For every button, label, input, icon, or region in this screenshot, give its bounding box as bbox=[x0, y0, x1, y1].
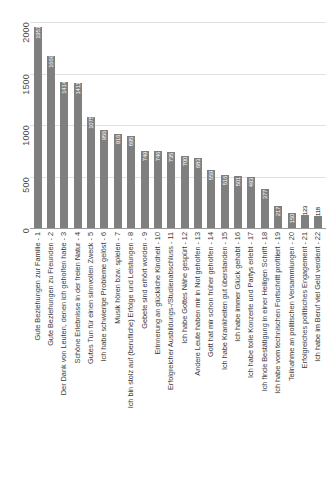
bar-slot: 1411 bbox=[71, 22, 84, 228]
x-axis-label-slot: Musik hören bzw. spielen - 7 bbox=[111, 230, 124, 478]
bar-slot: 217 bbox=[271, 22, 284, 228]
x-axis-tick-label: Gutes Tun für einen sinnvollen Zweck - 5 bbox=[87, 232, 95, 364]
x-axis-label-slot: Gutes Tun für einen sinnvollen Zweck - 5 bbox=[84, 230, 97, 478]
bar-slot: 493 bbox=[245, 22, 258, 228]
bar-value-label: 1411 bbox=[74, 82, 81, 94]
bar: 217 bbox=[274, 206, 282, 228]
bar-slot: 735 bbox=[165, 22, 178, 228]
bar-value-label: 895 bbox=[128, 137, 135, 146]
x-axis-tick-label: Ich habe Krankheiten gut überstanden - 1… bbox=[221, 232, 229, 370]
bar: 377 bbox=[261, 189, 269, 228]
x-axis-label-slot: Der Dank von Leuten, denen ich geholfen … bbox=[58, 230, 71, 478]
x-axis-tick-label: Gute Beziehungen zur Familie - 1 bbox=[34, 232, 42, 341]
bar: 118 bbox=[314, 216, 322, 228]
bar-slot: 956 bbox=[98, 22, 111, 228]
bar: 1669 bbox=[47, 56, 55, 228]
bar-value-label: 956 bbox=[101, 130, 108, 139]
bar-value-label: 746 bbox=[154, 152, 161, 161]
bar-value-label: 123 bbox=[301, 206, 308, 215]
bar: 956 bbox=[100, 130, 108, 228]
bar: 749 bbox=[141, 151, 149, 228]
bar: 123 bbox=[301, 215, 309, 228]
x-axis-label-slot: Ich habe Gottes Nähe gespürt - 12 bbox=[178, 230, 191, 478]
bar-value-label: 749 bbox=[141, 152, 148, 161]
bar-slot: 1669 bbox=[44, 22, 57, 228]
x-axis-label-slot: Erfolgreiches politisches Engagement - 2… bbox=[298, 230, 311, 478]
bar: 683 bbox=[194, 158, 202, 228]
y-axis: 0500100015002000 bbox=[0, 22, 30, 228]
bar-slot: 1414 bbox=[58, 22, 71, 228]
bar-value-label: 1414 bbox=[61, 82, 68, 95]
bar: 916 bbox=[114, 134, 122, 228]
plot-area: 1951166914141411107595691689574974673570… bbox=[30, 22, 326, 228]
x-axis-tick-label: Erfolgreiches politisches Engagement - 2… bbox=[301, 232, 309, 368]
bar-slot: 559 bbox=[205, 22, 218, 228]
bar-value-label: 1951 bbox=[34, 26, 41, 39]
x-axis-label-slot: Ich habe Krankheiten gut überstanden - 1… bbox=[218, 230, 231, 478]
bar-slot: 123 bbox=[298, 22, 311, 228]
x-axis-label-slot: Ich finde Bestätigung in einer Heiligen … bbox=[258, 230, 271, 478]
x-axis-tick-label: Gute Beziehungen zu Freunden - 2 bbox=[47, 232, 55, 346]
bar-series: 1951166914141411107595691689574974673570… bbox=[30, 22, 326, 228]
x-axis-label-slot: Schöne Erlebnisse in der freien Natur - … bbox=[71, 230, 84, 478]
x-axis-label-slot: Ich habe im Beruf viel Geld verdient - 2… bbox=[312, 230, 325, 478]
x-axis-tick-label: Ich habe Gottes Nähe gespürt - 12 bbox=[181, 232, 189, 344]
bar: 1411 bbox=[74, 83, 82, 228]
x-axis-label-slot: Gott hat mir schon früher geholfen - 14 bbox=[205, 230, 218, 478]
x-axis-tick-label: Musik hören bzw. spielen - 7 bbox=[114, 232, 122, 324]
bar: 493 bbox=[247, 177, 255, 228]
x-axis-tick-label: Erinnerung an glückliche Kindheit - 10 bbox=[154, 232, 162, 355]
bar-value-label: 377 bbox=[261, 190, 268, 199]
x-axis-tick-label: Ich habe vom technischen Fortschritt pro… bbox=[274, 232, 282, 394]
bar-value-label: 516 bbox=[221, 176, 228, 185]
x-axis-tick-label: Ich finde Bestätigung in einer Heiligen … bbox=[261, 232, 269, 391]
bar-slot: 1075 bbox=[84, 22, 97, 228]
bar-slot: 916 bbox=[111, 22, 124, 228]
x-axis-tick-label: Ich habe tolle Konzerte und Partys erleb… bbox=[247, 232, 255, 378]
bar-slot: 501 bbox=[231, 22, 244, 228]
x-axis-category-labels: Gute Beziehungen zur Familie - 1Gute Bez… bbox=[30, 230, 326, 478]
x-axis-label-slot: Gute Beziehungen zu Freunden - 2 bbox=[44, 230, 57, 478]
bar-value-label: 1075 bbox=[88, 117, 95, 130]
x-axis-tick-label: Gott hat mir schon früher geholfen - 14 bbox=[207, 232, 215, 357]
bar-value-label: 916 bbox=[114, 134, 121, 143]
x-axis-tick-label: Schöne Erlebnisse in der freien Natur - … bbox=[74, 232, 82, 363]
x-axis-label-slot: Andere Leute haben mir in Not geholfen -… bbox=[191, 230, 204, 478]
bar-slot: 1951 bbox=[31, 22, 44, 228]
x-axis-tick-label: Ich habe im Beruf viel Geld verdient - 2… bbox=[314, 232, 322, 362]
bar-slot: 118 bbox=[312, 22, 325, 228]
x-axis-tick-label: Gebete sind erhört worden - 9 bbox=[141, 232, 149, 329]
bar-value-label: 1669 bbox=[48, 55, 55, 68]
bar: 735 bbox=[167, 152, 175, 228]
bar: 700 bbox=[181, 156, 189, 228]
bar-value-label: 559 bbox=[208, 171, 215, 180]
bar: 895 bbox=[127, 136, 135, 228]
x-axis-tick-label: Ich habe immer Glück gehabt - 16 bbox=[234, 232, 242, 342]
x-axis-label-slot: Ich habe schwierige Probleme gelöst - 6 bbox=[98, 230, 111, 478]
bar: 150 bbox=[288, 213, 296, 228]
bar-value-label: 118 bbox=[315, 207, 322, 216]
x-axis-tick-label: Teilnahme an politischen Versammlungen -… bbox=[288, 232, 296, 381]
bar-value-label: 493 bbox=[248, 178, 255, 187]
axis-baseline bbox=[30, 228, 326, 229]
bar-slot: 895 bbox=[125, 22, 138, 228]
bar-slot: 150 bbox=[285, 22, 298, 228]
bar-slot: 700 bbox=[178, 22, 191, 228]
bar-value-label: 217 bbox=[275, 206, 282, 215]
bar-slot: 746 bbox=[151, 22, 164, 228]
x-axis-label-slot: Gebete sind erhört worden - 9 bbox=[138, 230, 151, 478]
bar-value-label: 683 bbox=[194, 158, 201, 167]
x-axis-label-slot: Teilnahme an politischen Versammlungen -… bbox=[285, 230, 298, 478]
x-axis-label-slot: Gute Beziehungen zur Familie - 1 bbox=[31, 230, 44, 478]
x-axis-label-slot: Erinnerung an glückliche Kindheit - 10 bbox=[151, 230, 164, 478]
bar-slot: 749 bbox=[138, 22, 151, 228]
bar: 1414 bbox=[60, 82, 68, 228]
bar-slot: 377 bbox=[258, 22, 271, 228]
x-axis-label-slot: Ich habe vom technischen Fortschritt pro… bbox=[271, 230, 284, 478]
x-axis-tick-label: Der Dank von Leuten, denen ich geholfen … bbox=[60, 232, 68, 395]
bar: 501 bbox=[234, 176, 242, 228]
bar-value-label: 501 bbox=[235, 177, 242, 186]
bar-value-label: 150 bbox=[288, 213, 295, 222]
bar: 1075 bbox=[87, 117, 95, 228]
bar-slot: 683 bbox=[191, 22, 204, 228]
